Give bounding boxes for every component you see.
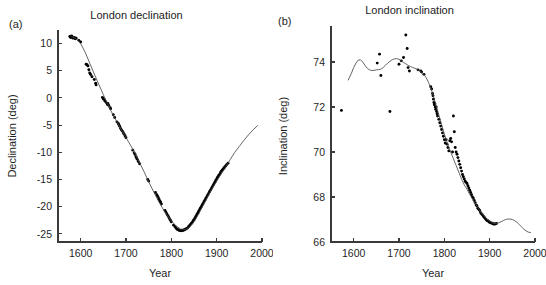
- y-tick-label: 10: [40, 37, 52, 49]
- x-tick-label: 2000: [523, 247, 546, 259]
- x-tick-label: 1600: [69, 247, 93, 259]
- y-axis-label: Declination (deg): [6, 94, 18, 177]
- x-tick-label: 1900: [205, 247, 229, 259]
- x-tick-label: 1700: [387, 247, 411, 259]
- model-curve: [348, 59, 530, 233]
- y-tick-label: 74: [313, 56, 325, 68]
- data-point: [407, 66, 410, 69]
- x-tick-label: 1800: [160, 247, 184, 259]
- data-point: [408, 70, 411, 73]
- data-point: [457, 160, 460, 163]
- data-point: [453, 130, 456, 133]
- y-tick-label: 0: [46, 92, 52, 104]
- data-point: [379, 74, 382, 77]
- data-point: [340, 109, 343, 112]
- plot-inclination: 747270686616001700180019002000YearInclin…: [273, 0, 546, 285]
- y-tick-label: -15: [37, 173, 52, 185]
- y-tick-label: 5: [46, 64, 52, 76]
- data-point: [450, 140, 453, 143]
- data-point: [454, 146, 457, 149]
- data-point: [452, 115, 455, 118]
- y-tick-label: 66: [313, 236, 325, 248]
- x-axis-label: Year: [149, 267, 172, 279]
- y-axis-label: Inclination (deg): [277, 97, 289, 175]
- data-point: [95, 83, 98, 86]
- y-tick-label: -20: [37, 200, 52, 212]
- x-tick-label: 1600: [342, 247, 366, 259]
- panel-declination: (a) London declination 1050-5-10-15-20-2…: [0, 0, 273, 285]
- data-point: [449, 137, 452, 140]
- data-point: [87, 68, 90, 71]
- plot-declination: 1050-5-10-15-20-2516001700180019002000Ye…: [0, 0, 273, 285]
- data-point: [93, 78, 96, 81]
- data-point: [460, 170, 463, 173]
- data-point: [456, 156, 459, 159]
- data-point: [376, 62, 379, 65]
- data-point: [398, 63, 401, 66]
- data-point: [86, 64, 89, 67]
- data-point: [458, 163, 461, 166]
- figure-container: (a) London declination 1050-5-10-15-20-2…: [0, 0, 546, 285]
- panel-inclination: (b) London inclination 74727068661600170…: [273, 0, 546, 285]
- y-tick-label: 70: [313, 146, 325, 158]
- data-point: [388, 110, 391, 113]
- data-point: [91, 75, 94, 78]
- model-curve: [72, 37, 258, 230]
- y-tick-label: 72: [313, 101, 325, 113]
- y-tick-label: 68: [313, 191, 325, 203]
- x-tick-label: 1900: [478, 247, 502, 259]
- y-tick-label: -10: [37, 146, 52, 158]
- x-tick-label: 1700: [114, 247, 138, 259]
- data-point: [402, 56, 405, 59]
- data-point: [459, 166, 462, 169]
- y-tick-label: -25: [37, 228, 52, 240]
- data-point: [404, 34, 407, 37]
- data-point: [456, 153, 459, 156]
- x-tick-label: 1800: [433, 247, 457, 259]
- data-point: [406, 47, 409, 50]
- y-tick-label: -5: [43, 119, 52, 131]
- data-point: [378, 53, 381, 56]
- x-axis-label: Year: [422, 267, 445, 279]
- x-tick-label: 2000: [250, 247, 273, 259]
